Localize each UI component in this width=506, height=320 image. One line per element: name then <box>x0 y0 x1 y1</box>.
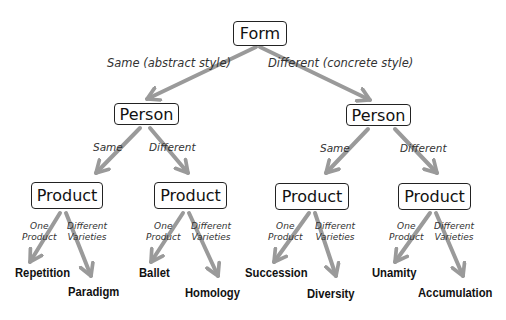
node-person-left-label: Person <box>120 105 174 124</box>
node-product-3: Product <box>275 183 349 210</box>
node-product-4-label: Product <box>404 187 465 206</box>
edge-label-left-same: Same <box>93 141 123 153</box>
edge-label-p4-one-product: One Product <box>389 221 424 243</box>
node-product-3-label: Product <box>282 187 343 206</box>
edge-label-right-different: Different <box>400 142 447 154</box>
leaf-diversity: Diversity <box>307 287 355 301</box>
node-product-2: Product <box>154 182 227 209</box>
leaf-repetition: Repetition <box>15 266 70 280</box>
node-form-label: Form <box>240 24 280 43</box>
edge-label-p3-different-varieties: Different Varieties <box>315 221 355 243</box>
node-product-1: Product <box>31 182 103 209</box>
edge-label-p1-different-varieties: Different Varieties <box>67 221 107 243</box>
node-product-1-label: Product <box>37 186 98 205</box>
node-person-right-label: Person <box>352 106 406 125</box>
leaf-homology: Homology <box>185 286 240 300</box>
edge-label-p4-different-varieties: Different Varieties <box>434 221 474 243</box>
node-product-4: Product <box>398 183 471 210</box>
arrow-form-to-person-left <box>147 47 256 99</box>
leaf-unamity: Unamity <box>372 266 416 280</box>
node-form: Form <box>233 21 287 46</box>
edge-label-right-same: Same <box>320 142 350 154</box>
leaf-accumulation: Accumulation <box>418 286 492 300</box>
edge-label-same-abstract: Same (abstract style) <box>107 56 231 70</box>
node-product-2-label: Product <box>160 186 221 205</box>
edge-label-p1-one-product: One Product <box>22 221 57 243</box>
edge-label-p2-different-varieties: Different Varieties <box>191 221 231 243</box>
edge-label-left-different: Different <box>149 141 196 153</box>
leaf-ballet: Ballet <box>139 266 170 280</box>
node-person-left: Person <box>114 103 179 125</box>
form-person-product-tree-diagram: Form Same (abstract style) Different (co… <box>0 0 506 320</box>
leaf-succession: Succession <box>245 266 308 280</box>
edge-label-p2-one-product: One Product <box>146 221 181 243</box>
edge-label-p3-one-product: One Product <box>268 221 303 243</box>
arrow-form-to-person-right <box>260 47 370 100</box>
leaf-paradigm: Paradigm <box>68 285 119 299</box>
node-person-right: Person <box>346 104 411 126</box>
edge-label-different-concrete: Different (concrete style) <box>268 56 413 70</box>
